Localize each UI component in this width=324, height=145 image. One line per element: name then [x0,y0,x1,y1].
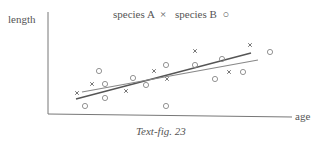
species-b-point [82,103,87,108]
species-a-point [75,91,79,95]
species-a-point [227,70,231,74]
legend-b-label: species B [175,8,217,20]
species-b-point [192,62,197,67]
species-b-point [96,68,101,73]
species-a-point [193,49,197,53]
y-axis-label: length [8,13,36,25]
species-a-point [165,77,169,81]
species-b-point [212,76,217,81]
species-a-point [124,89,128,93]
species-a-point [90,82,94,86]
circle-marker-icon: ○ [223,8,230,20]
species-b-point [163,62,168,67]
x-axis [48,114,292,117]
figure-caption: Text-fig. 23 [136,125,186,137]
species-b-point [102,95,107,100]
regression-line [82,60,258,92]
species-b-point [102,81,107,86]
legend-a-label: species A [113,8,154,20]
species-b-point [143,82,148,87]
legend-species-b: species B ○ [175,8,229,20]
species-a-point [152,69,156,73]
species-a-point [248,43,252,47]
species-b-point [130,75,135,80]
species-b-point [163,103,168,108]
species-b-point [240,69,245,74]
x-axis-label: age [295,110,310,122]
scatter-plot [0,0,324,145]
species-b-point [267,49,272,54]
cross-marker-icon: × [160,8,166,20]
legend-species-a: species A × [113,8,166,20]
